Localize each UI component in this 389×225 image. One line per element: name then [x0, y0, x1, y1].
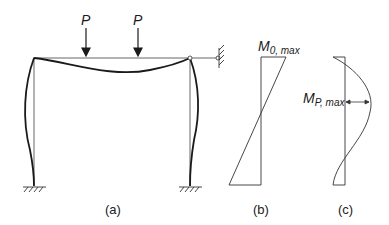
moment-diagram-b	[229, 57, 286, 185]
fixed-support-right	[179, 187, 202, 192]
moment-diagram-c	[333, 57, 371, 185]
load-label-2: P	[133, 12, 142, 28]
moment-label-mpmax: MP, max	[303, 90, 345, 108]
fixed-support-left	[23, 187, 46, 192]
mp-max-dimension	[346, 100, 369, 104]
caption-b: (b)	[253, 202, 269, 217]
moment-symbol: M	[303, 90, 315, 106]
moment-subscript: P, max	[315, 97, 345, 108]
moment-subscript: 0, max	[270, 45, 300, 56]
moment-symbol: M	[258, 38, 270, 54]
frame-diagram	[0, 0, 389, 225]
caption-c: (c)	[338, 202, 353, 217]
load-label-1: P	[81, 12, 90, 28]
caption-a: (a)	[105, 202, 121, 217]
load-arrows	[82, 28, 142, 56]
hinge-joint	[188, 56, 192, 60]
moment-label-m0max: M0, max	[258, 38, 300, 56]
deflected-shape	[25, 58, 198, 186]
